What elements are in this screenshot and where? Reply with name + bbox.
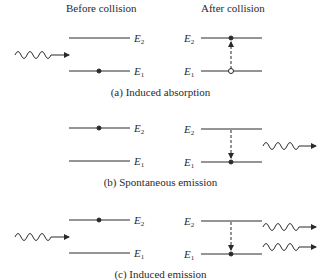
label-e2: E2 (183, 123, 195, 137)
electron-icon (97, 126, 101, 130)
label-e1: E1 (133, 247, 145, 261)
label-e1: E1 (183, 248, 195, 262)
vacancy-icon (229, 69, 234, 74)
caption-c: (c) Induced emission (0, 268, 321, 280)
label-e1: E1 (133, 155, 145, 169)
electron-icon (229, 252, 233, 256)
label-e1: E1 (183, 156, 195, 170)
emitted-photon-icon (263, 143, 316, 150)
electron-icon (229, 160, 233, 164)
electron-icon (229, 36, 233, 40)
caption-b: (b) Spontaneous emission (0, 176, 321, 188)
electron-icon (97, 218, 101, 222)
panel-c-induced-emission (15, 218, 316, 256)
label-e2: E2 (183, 32, 195, 46)
emitted-photon-icon (263, 224, 316, 231)
label-e2: E2 (133, 122, 145, 136)
label-e2: E2 (183, 215, 195, 229)
label-e1: E1 (133, 65, 145, 79)
electron-icon (97, 69, 101, 73)
incoming-photon-icon (15, 234, 69, 241)
incoming-photon-icon (15, 52, 69, 59)
emitted-photon-icon (263, 244, 316, 251)
label-e1: E1 (183, 65, 195, 79)
label-e2: E2 (133, 214, 145, 228)
caption-a: (a) Induced absorption (0, 86, 321, 98)
label-e2: E2 (133, 32, 145, 46)
